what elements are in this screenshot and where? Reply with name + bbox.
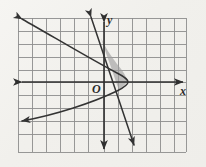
- figure-canvas: y x O: [0, 0, 206, 167]
- origin-label: O: [92, 83, 101, 95]
- grid-lines: [18, 18, 186, 152]
- y-axis-label: y: [107, 14, 112, 26]
- x-axis-label: x: [180, 85, 186, 97]
- coordinate-plane-figure: [0, 0, 206, 167]
